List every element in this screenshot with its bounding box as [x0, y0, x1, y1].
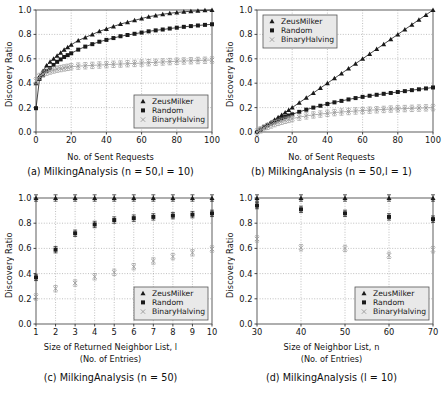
data-marker-square [375, 93, 379, 97]
panel-d: Discovery Ratio 0.00.20.40.60.81.0304050… [221, 186, 442, 400]
data-marker-square [255, 204, 259, 208]
legend: ZeusMilkerRandomBinaryHalving [134, 287, 208, 320]
data-marker-square [431, 217, 435, 221]
panel-a-plot: 0.00.20.40.60.81.0020406080100ZeusMilker… [0, 0, 221, 150]
data-marker-square [171, 214, 175, 218]
legend-label: ZeusMilker [373, 289, 415, 298]
x-tick-label: 10 [207, 327, 218, 337]
y-tick-label: 0.0 [239, 127, 252, 137]
y-tick-label: 0.8 [239, 218, 252, 228]
data-marker-square [133, 32, 137, 36]
legend-label: Random [373, 298, 404, 307]
x-tick-label: 9 [190, 327, 195, 337]
data-marker-square [368, 94, 372, 98]
panel-c: Discovery Ratio 0.00.20.40.60.81.0123456… [0, 186, 221, 400]
x-tick-label: 2 [53, 327, 58, 337]
data-marker-square [52, 63, 56, 67]
y-tick-label: 0.8 [239, 29, 252, 39]
x-tick-label: 20 [66, 135, 77, 145]
data-marker-square [104, 38, 108, 42]
legend-label: BinaryHalving [281, 35, 334, 44]
data-marker-square [210, 22, 214, 26]
y-tick-label: 0.6 [239, 54, 252, 64]
data-marker-square [182, 25, 186, 29]
x-tick-label: 30 [252, 327, 263, 337]
panel-d-x-axis-label: Size of Neighbor List, n [221, 342, 442, 352]
y-tick-label: 0.4 [18, 269, 31, 279]
y-tick-label: 1.0 [239, 5, 252, 15]
y-tick-label: 0.0 [239, 319, 252, 329]
panel-c-x-axis-label: Size of Returned Neighbor List, l [0, 342, 221, 352]
panel-d-caption: (d) MilkingAnalysis (l = 10) [221, 372, 442, 383]
data-marker-square [73, 231, 77, 235]
x-tick-label: 7 [151, 327, 156, 337]
panel-c-plot: 0.00.20.40.60.81.012345678910ZeusMilkerR… [0, 186, 221, 340]
data-marker-square [141, 300, 145, 304]
y-tick-label: 0.8 [18, 218, 31, 228]
data-marker-square [189, 24, 193, 28]
data-marker-square [417, 87, 421, 91]
x-tick-label: 0 [33, 135, 38, 145]
x-tick-label: 60 [136, 135, 147, 145]
figure-milking-analysis: Discovery Ratio 0.00.20.40.60.81.0020406… [0, 0, 443, 400]
data-marker-square [132, 216, 136, 220]
legend-label: ZeusMilker [281, 17, 323, 26]
data-marker-square [396, 90, 400, 94]
panel-c-x-axis-sublabel: (No. of Entries) [0, 354, 221, 364]
legend-label: Random [281, 26, 312, 35]
data-marker-square [34, 106, 38, 110]
legend-label: Random [152, 298, 183, 307]
legend: ZeusMilkerRandomBinaryHalving [355, 287, 429, 320]
x-tick-label: 5 [112, 327, 117, 337]
y-tick-label: 0.4 [18, 78, 31, 88]
data-marker-square [347, 97, 351, 101]
x-tick-label: 40 [322, 135, 333, 145]
x-tick-label: 50 [340, 327, 351, 337]
legend-label: ZeusMilker [152, 289, 194, 298]
x-tick-label: 6 [131, 327, 136, 337]
data-marker-square [325, 102, 329, 106]
panel-c-caption: (c) MilkingAnalysis (n = 50) [0, 372, 221, 383]
data-marker-square [362, 300, 366, 304]
panel-a-caption: (a) MilkingAnalysis (n = 50,l = 10) [0, 166, 221, 177]
data-marker-square [382, 92, 386, 96]
data-marker-square [83, 45, 87, 49]
data-marker-square [140, 31, 144, 35]
data-marker-square [97, 40, 101, 44]
legend: ZeusMilkerRandomBinaryHalving [263, 15, 337, 48]
data-marker-square [387, 215, 391, 219]
y-tick-label: 0.6 [239, 243, 252, 253]
panel-a-x-axis-label: No. of Sent Requests [0, 152, 221, 162]
data-marker-square [190, 213, 194, 217]
x-tick-label: 40 [296, 327, 307, 337]
y-tick-label: 0.4 [239, 78, 252, 88]
data-marker-square [196, 23, 200, 27]
legend-label: BinaryHalving [373, 307, 426, 316]
data-marker-square [90, 42, 94, 46]
y-tick-label: 0.8 [18, 29, 31, 39]
data-marker-square [141, 108, 145, 112]
x-tick-label: 70 [428, 327, 439, 337]
x-tick-label: 4 [92, 327, 97, 337]
data-marker-square [339, 99, 343, 103]
y-tick-label: 0.4 [239, 269, 252, 279]
x-tick-label: 80 [172, 135, 183, 145]
data-marker-square [93, 222, 97, 226]
x-tick-label: 60 [357, 135, 368, 145]
panel-b-plot: 0.00.20.40.60.81.0020406080100ZeusMilker… [221, 0, 442, 150]
data-marker-square [299, 207, 303, 211]
data-marker-square [147, 29, 151, 33]
legend: ZeusMilkerRandomBinaryHalving [134, 95, 208, 128]
x-tick-label: 8 [170, 327, 175, 337]
x-tick-label: 20 [287, 135, 298, 145]
data-marker-square [270, 28, 274, 32]
data-marker-square [161, 28, 165, 32]
panel-d-plot: 0.00.20.40.60.81.03040506070ZeusMilkerRa… [221, 186, 442, 340]
data-marker-square [151, 215, 155, 219]
data-marker-square [389, 91, 393, 95]
data-marker-square [203, 23, 207, 27]
data-marker-square [111, 36, 115, 40]
panel-d-x-axis-sublabel: (No. of Entries) [221, 354, 442, 364]
x-tick-label: 3 [72, 327, 77, 337]
data-marker-square [112, 218, 116, 222]
